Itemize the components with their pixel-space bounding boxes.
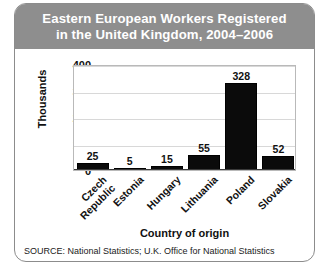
bar: 328 [225, 83, 257, 170]
bar-value-label: 55 [198, 142, 210, 154]
gridline [74, 146, 295, 147]
chart-title-line-2: in the United Kingdom, 2004–2006 [56, 27, 273, 43]
x-axis-title: Country of origin [73, 227, 296, 239]
bar-value-label: 15 [161, 153, 173, 165]
bar-value-label: 25 [87, 150, 99, 162]
chart-title-line-1: Eastern European Workers Registered [42, 11, 286, 27]
x-axis-line [74, 169, 295, 171]
gridline [74, 119, 295, 120]
bar-value-label: 328 [232, 70, 250, 82]
chart-title-banner: Eastern European Workers Registered in t… [15, 4, 314, 49]
bar-value-label: 5 [127, 155, 133, 167]
plot-area: 255155532852 [73, 65, 296, 171]
chart-figure: Eastern European Workers Registered in t… [14, 3, 315, 262]
bar-value-label: 52 [273, 143, 285, 155]
source-note: SOURCE: National Statistics; U.K. Office… [24, 246, 274, 256]
gridline [74, 93, 295, 94]
bar-slot: 328 [225, 83, 257, 170]
chart-body: Thousands 0100200300400 255155532852 Cze… [15, 49, 315, 262]
y-axis-title: Thousands [36, 59, 48, 139]
gridline [74, 66, 295, 67]
